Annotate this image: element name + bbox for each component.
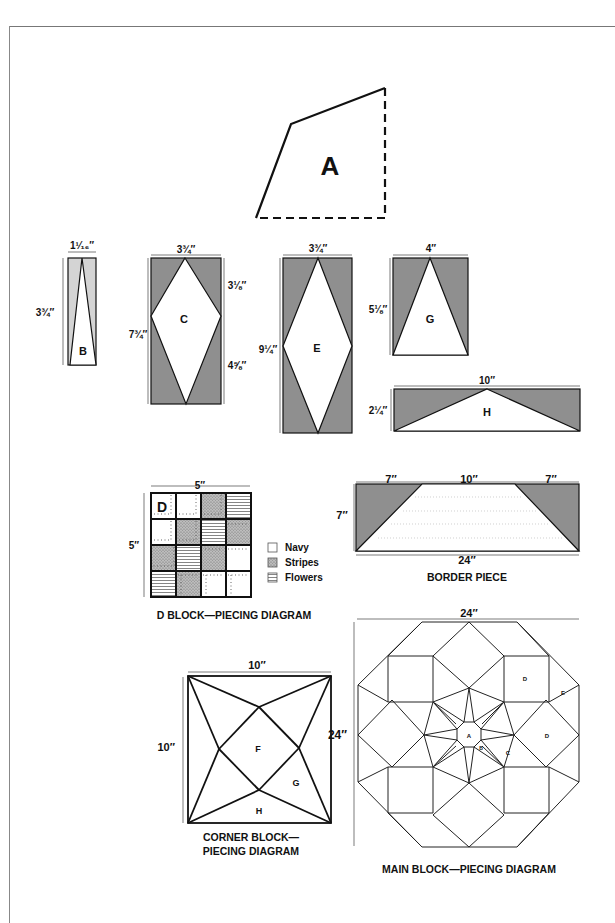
piece-h-label: H xyxy=(483,406,491,418)
corner-label-h: H xyxy=(256,806,263,816)
legend-swatch-stripes xyxy=(268,558,277,567)
d-block-label: D xyxy=(157,499,167,515)
piece-e: 3¾″ 9¼″ E xyxy=(259,243,352,433)
piece-e-label: E xyxy=(313,342,320,354)
legend-label-stripes: Stripes xyxy=(285,557,319,568)
piece-b-height: 3¾″ xyxy=(36,307,55,318)
main-label-d-right: D xyxy=(545,733,550,739)
piece-g-label: G xyxy=(426,313,435,325)
piece-c-height: 7¾″ xyxy=(129,329,148,340)
piece-g: 4″ 5⅛″ G xyxy=(369,243,468,355)
legend-label-navy: Navy xyxy=(285,542,309,553)
piece-c-upper: 3⅛″ xyxy=(228,280,247,291)
piece-h-height: 2¼″ xyxy=(369,405,388,416)
piece-h: 10″ 2¼″ H xyxy=(369,375,580,431)
d-block-caption: D BLOCK—PIECING DIAGRAM xyxy=(157,609,312,621)
corner-block-width: 10″ xyxy=(248,659,266,671)
border-height: 7″ xyxy=(336,509,348,521)
d-block-legend: Navy Stripes Flowers xyxy=(268,542,323,583)
piece-a-label: A xyxy=(321,151,340,181)
corner-block-height: 10″ xyxy=(157,741,175,753)
piece-e-width: 3¾″ xyxy=(309,243,328,254)
border-left-width: 7″ xyxy=(385,473,397,485)
main-block-caption: MAIN BLOCK—PIECING DIAGRAM xyxy=(382,863,556,875)
d-block-width: 5″ xyxy=(195,480,206,491)
border-top-width: 10″ xyxy=(460,473,478,485)
main-label-d-top: D xyxy=(523,676,528,682)
d-block-diagram: 5″ 5″ xyxy=(129,480,324,621)
piece-g-width: 4″ xyxy=(426,243,437,254)
main-label-a: A xyxy=(467,733,472,739)
piece-h-width: 10″ xyxy=(479,375,495,386)
corner-label-g: G xyxy=(292,778,299,788)
legend-label-flowers: Flowers xyxy=(285,572,323,583)
d-block-height: 5″ xyxy=(129,540,140,551)
border-right-width: 7″ xyxy=(545,473,557,485)
piece-c-lower: 4⅝″ xyxy=(228,360,247,371)
piece-c: 3¾″ 3⅛″ 4⅝″ 7¾″ C xyxy=(129,244,247,404)
corner-block-caption-2: PIECING DIAGRAM xyxy=(203,845,300,857)
legend-swatch-navy xyxy=(268,543,277,552)
main-block-width: 24″ xyxy=(460,607,478,619)
piece-a: A xyxy=(256,88,385,218)
piece-b: 1¹⁄₁₆″ 3¾″ B xyxy=(36,240,96,365)
legend-swatch-flowers xyxy=(268,573,277,582)
main-label-b: B xyxy=(479,745,483,751)
corner-label-f: F xyxy=(255,744,261,754)
piece-b-width: 1¹⁄₁₆″ xyxy=(70,240,94,251)
main-block-diagram: 24″ 24″ xyxy=(328,607,579,875)
border-piece-diagram: 7″ 10″ 7″ 7″ 24″ BORDER PIECE xyxy=(336,473,579,583)
piece-b-label: B xyxy=(79,345,87,357)
pattern-sheet: A 1¹⁄₁₆″ 3¾″ B 3¾″ 3⅛″ 4⅝″ 7¾″ C 3¾″ 9¼″… xyxy=(0,0,615,923)
main-label-e: E xyxy=(561,690,565,696)
border-piece-caption: BORDER PIECE xyxy=(427,571,507,583)
border-bottom-width: 24″ xyxy=(458,554,476,566)
main-label-c: C xyxy=(506,750,511,756)
piece-e-height: 9¼″ xyxy=(259,344,278,355)
corner-block-diagram: 10″ 10″ F G H CORNER BLOCK— PIECING DIAG… xyxy=(157,659,331,857)
piece-c-label: C xyxy=(180,313,188,325)
piece-c-width: 3¾″ xyxy=(177,244,196,255)
corner-block-caption-1: CORNER BLOCK— xyxy=(203,831,300,843)
main-block-height: 24″ xyxy=(328,728,347,742)
piece-g-height: 5⅛″ xyxy=(369,304,388,315)
